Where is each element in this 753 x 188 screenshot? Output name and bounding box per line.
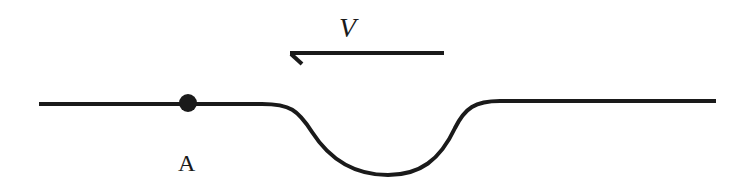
track-path (39, 101, 716, 175)
point-a-dot (179, 94, 197, 112)
arrow-barb (291, 54, 302, 64)
velocity-label: V (339, 12, 356, 44)
track-diagram (0, 0, 753, 188)
velocity-arrow (290, 53, 444, 64)
point-a-label: A (178, 150, 195, 177)
